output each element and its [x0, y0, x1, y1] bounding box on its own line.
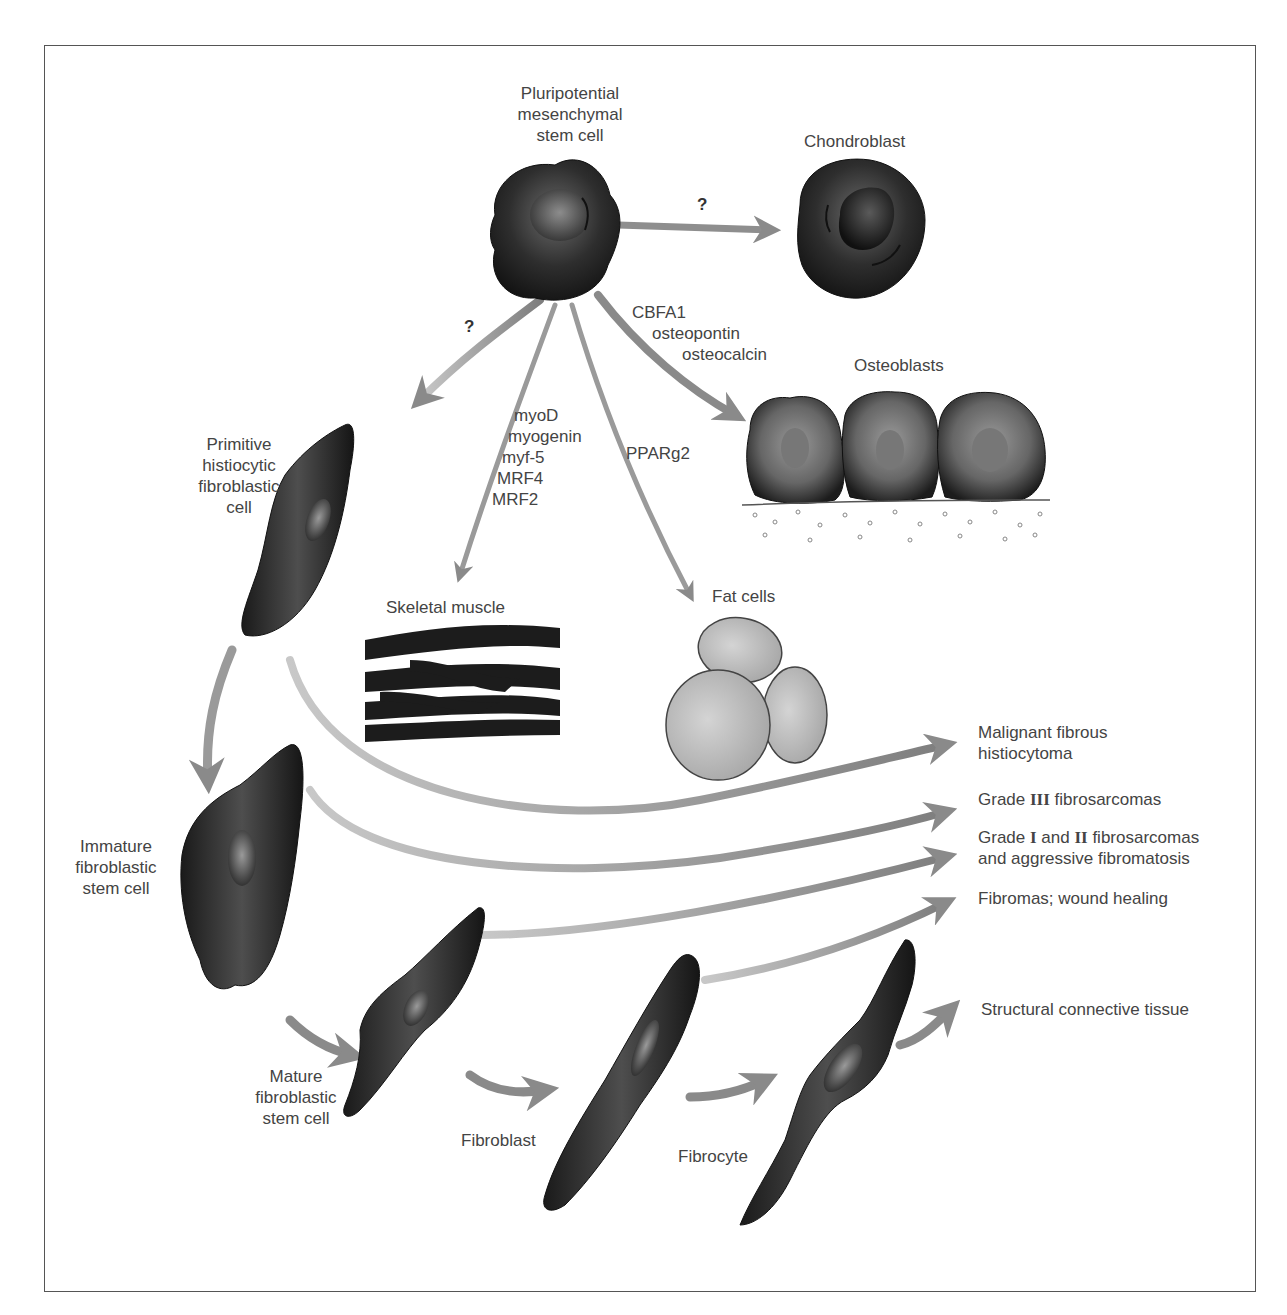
mature-cell-illustration [344, 908, 485, 1117]
edge-label-osteo-factors: CBFA1 osteopontin osteocalcin [632, 302, 767, 365]
label-mature-cell: Mature fibroblastic stem cell [236, 1066, 356, 1129]
fat-cells-illustration [666, 611, 827, 780]
stem-cell-illustration [490, 160, 619, 300]
label-skeletal-muscle: Skeletal muscle [386, 597, 505, 618]
outcome-malignant-fibrous-histiocytoma: Malignant fibrous histiocytoma [978, 722, 1107, 764]
outcome-fibromas-wound-healing: Fibromas; wound healing [978, 888, 1168, 909]
immature-cell-illustration [181, 745, 303, 989]
label-fibrocyte: Fibrocyte [678, 1146, 748, 1167]
label-osteoblasts: Osteoblasts [854, 355, 944, 376]
label-fibroblast: Fibroblast [461, 1130, 536, 1151]
edge-label-fat-factors: PPARg2 [626, 443, 690, 464]
label-chondroblast: Chondroblast [804, 131, 905, 152]
skeletal-muscle-illustration [365, 625, 560, 742]
label-primitive-cell: Primitive histiocytic fibroblastic cell [179, 434, 299, 518]
arrow-to-fibrocyte [690, 1080, 765, 1097]
arrow-to-mature [290, 1020, 352, 1055]
diagram-artwork [0, 0, 1287, 1315]
edge-label-muscle-factors: myoD myogenin myf-5 MRF4 MRF2 [492, 405, 582, 510]
fibroblast-illustration [544, 955, 700, 1211]
chondroblast-illustration [798, 159, 925, 298]
outcome-grade-iii-fibrosarcomas: Grade III fibrosarcomas [978, 789, 1161, 810]
edge-label-chondroblast-unknown: ? [697, 195, 707, 215]
outcome-grade-i-ii-fibrosarcomas: Grade I and II fibrosarcomas and aggress… [978, 827, 1199, 869]
arrow-to-primitive [420, 300, 540, 400]
label-stem-cell: Pluripotential mesenchymal stem cell [495, 83, 645, 146]
outcome-structural-connective-tissue: Structural connective tissue [981, 999, 1189, 1020]
arrow-to-grade3 [310, 790, 945, 868]
arrow-to-chondroblast [618, 225, 770, 230]
arrow-to-immature [207, 650, 232, 780]
arrow-to-structural [900, 1010, 950, 1045]
arrows [207, 225, 950, 1097]
osteoblasts-illustration [742, 392, 1050, 542]
label-immature-cell: Immature fibroblastic stem cell [51, 836, 181, 899]
arrow-to-fibroblast [470, 1075, 545, 1092]
label-fat-cells: Fat cells [712, 586, 775, 607]
edge-label-primitive-unknown: ? [464, 317, 474, 337]
